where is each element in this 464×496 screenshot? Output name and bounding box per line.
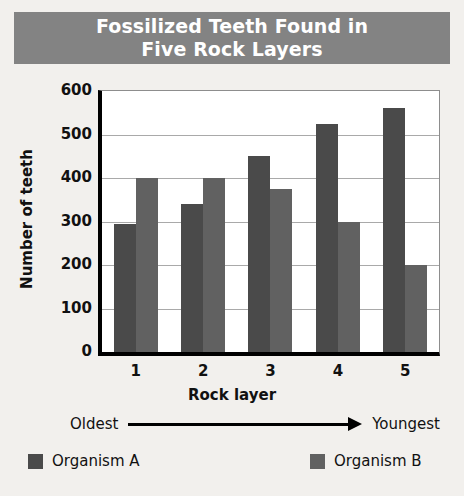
y-axis-tick-label: 100 <box>36 299 92 317</box>
bar-group <box>169 91 236 352</box>
bar-organism-a <box>383 108 405 352</box>
legend-label: Organism A <box>52 452 140 470</box>
x-axis-tick-label: 2 <box>173 362 233 380</box>
bar-organism-b <box>136 178 158 352</box>
legend-label: Organism B <box>334 452 422 470</box>
x-axis-tick-label: 1 <box>106 362 166 380</box>
y-axis-tick-label: 600 <box>36 81 92 99</box>
bar-group <box>372 91 439 352</box>
bar-organism-a <box>248 156 270 352</box>
age-direction-annotation: Oldest Youngest <box>70 412 440 436</box>
bar-group <box>102 91 169 352</box>
x-axis-tick-label: 4 <box>308 362 368 380</box>
legend-swatch-icon <box>28 454 43 469</box>
page-title: Fossilized Teeth Found in Five Rock Laye… <box>96 15 368 61</box>
legend-item[interactable]: Organism B <box>310 452 422 470</box>
bar-organism-b <box>203 178 225 352</box>
plot-inner <box>102 91 439 352</box>
bar-organism-a <box>316 124 338 352</box>
arrow-shaft <box>128 423 350 426</box>
y-axis-tick-label: 300 <box>36 212 92 230</box>
arrow-head <box>348 417 362 431</box>
bar-organism-b <box>405 265 427 352</box>
y-axis-tick-labels: 0100200300400500600 <box>30 90 92 356</box>
x-axis-tick-label: 3 <box>241 362 301 380</box>
oldest-label: Oldest <box>70 415 118 433</box>
bar-organism-a <box>181 204 203 352</box>
y-axis-tick-label: 0 <box>36 342 92 360</box>
title-line-1: Fossilized Teeth Found in <box>96 15 368 37</box>
bar-organism-b <box>270 189 292 352</box>
youngest-label: Youngest <box>372 415 440 433</box>
bar-group <box>304 91 371 352</box>
x-axis-tick-label: 5 <box>375 362 435 380</box>
plot-area <box>98 90 440 356</box>
title-line-2: Five Rock Layers <box>141 38 322 60</box>
right-arrow-icon <box>128 417 362 431</box>
bar-group <box>237 91 304 352</box>
y-axis-tick-label: 400 <box>36 168 92 186</box>
x-axis-title: Rock layer <box>0 386 464 404</box>
chart-title-banner: Fossilized Teeth Found in Five Rock Laye… <box>14 12 450 64</box>
legend-swatch-icon <box>310 454 325 469</box>
chart-legend: Organism AOrganism B <box>0 452 464 482</box>
bar-chart: Number of teeth 0100200300400500600 Rock… <box>0 70 464 390</box>
bar-organism-b <box>338 222 360 353</box>
y-axis-tick-label: 500 <box>36 125 92 143</box>
bar-organism-a <box>114 224 136 352</box>
y-axis-tick-label: 200 <box>36 255 92 273</box>
legend-item[interactable]: Organism A <box>28 452 140 470</box>
